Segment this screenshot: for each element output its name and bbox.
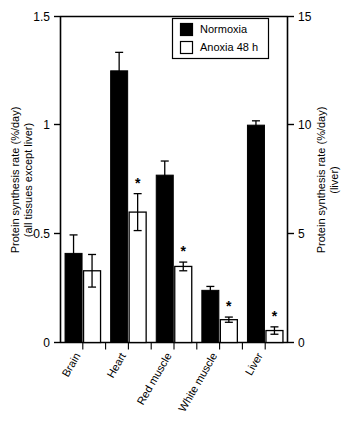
chart-figure: 0 0.5 1 1.5 0 5 10 15 **** BrainHeartRed… (0, 0, 355, 429)
bar-heart-anoxia-48-h (129, 212, 146, 342)
significance-marker-white-muscle-anoxia-48-h: * (226, 298, 232, 314)
bar-liver-normoxia (247, 125, 264, 342)
bar-white-muscle-normoxia (202, 290, 219, 342)
left-tick-label-1.5: 1.5 (33, 10, 50, 24)
legend-swatch-normoxia (181, 24, 193, 36)
left-tick-label-0.5: 0.5 (33, 227, 50, 241)
bar-red-muscle-anoxia-48-h (175, 266, 192, 342)
legend: Normoxia Anoxia 48 h (173, 19, 269, 59)
significance-marker-liver-anoxia-48-h: * (272, 308, 278, 324)
right-axis-title-line1: Protein synthesis rate (%/day) (315, 107, 327, 254)
legend-swatch-anoxia (181, 42, 193, 54)
left-tick-label-0: 0 (43, 336, 50, 350)
right-axis-title-line2: (liver) (328, 166, 340, 194)
legend-label-anoxia: Anoxia 48 h (200, 41, 258, 53)
category-ticks (83, 343, 265, 350)
significance-marker-heart-anoxia-48-h: * (135, 175, 141, 191)
right-tick-label-10: 10 (298, 118, 312, 132)
category-label-white-muscle: White muscle (176, 351, 219, 414)
category-label-heart: Heart (104, 351, 128, 380)
bar-white-muscle-anoxia-48-h (220, 320, 237, 343)
right-axis-title: Protein synthesis rate (%/day) (liver) (315, 107, 340, 254)
bar-heart-normoxia (111, 71, 128, 343)
right-axis-ticks: 0 5 10 15 (288, 10, 312, 350)
category-label-liver: Liver (243, 350, 265, 377)
right-tick-label-15: 15 (298, 10, 312, 24)
left-axis-title-line1: Protein synthesis rate (%/day) (9, 107, 21, 254)
legend-label-normoxia: Normoxia (200, 23, 248, 35)
significance-marker-red-muscle-anoxia-48-h: * (181, 243, 187, 259)
left-axis-ticks: 0 0.5 1 1.5 (33, 10, 60, 350)
right-tick-label-5: 5 (298, 227, 305, 241)
right-tick-label-0: 0 (298, 336, 305, 350)
left-axis-title: Protein synthesis rate (%/day) (all tiss… (9, 107, 34, 254)
bar-red-muscle-normoxia (156, 175, 173, 342)
category-labels: BrainHeartRed muscleWhite muscleLiver (59, 350, 265, 413)
bar-chart: 0 0.5 1 1.5 0 5 10 15 **** BrainHeartRed… (0, 0, 355, 429)
left-axis-title-line2: (all tissues except liver) (22, 123, 34, 237)
category-label-brain: Brain (59, 351, 82, 379)
bars-layer: **** (65, 52, 283, 342)
category-label-red-muscle: Red muscle (134, 351, 173, 407)
left-tick-label-1: 1 (43, 118, 50, 132)
